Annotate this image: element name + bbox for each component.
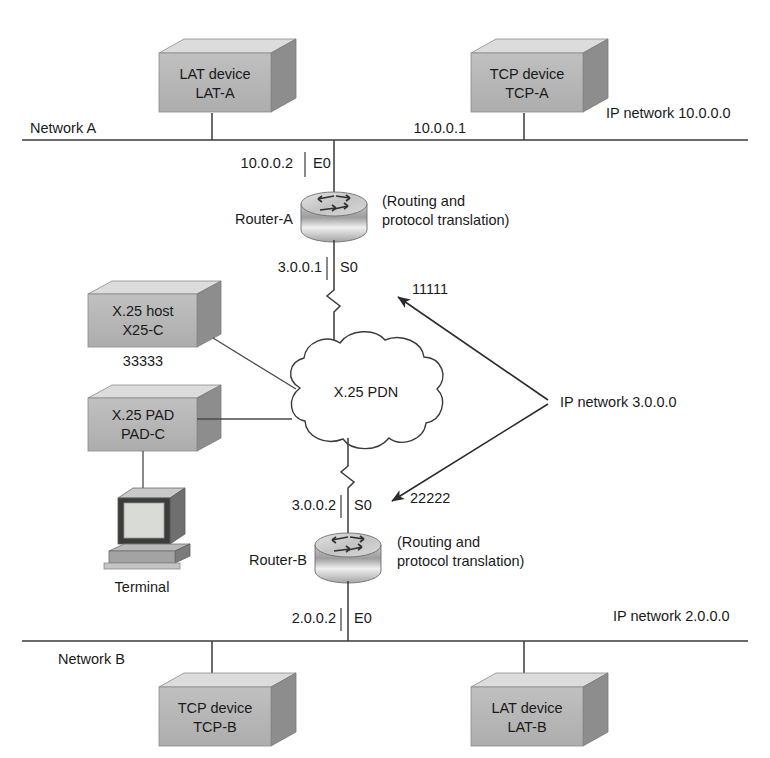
router-a-name: Router-A [235, 211, 293, 227]
router-a-ser-if: S0 [340, 259, 358, 275]
router-b-eth-ip: 2.0.0.2 [292, 610, 336, 626]
node-tcp-a-line2: TCP-A [505, 85, 549, 101]
node-x25-pad-line2: PAD-C [121, 426, 165, 442]
x25-addr-11111: 11111 [412, 281, 448, 297]
x25-pdn-cloud[interactable]: X.25 PDN [291, 332, 443, 449]
x25-addr-22222: 22222 [410, 490, 450, 506]
network-diagram: Network A IP network 10.0.0.0 LAT device… [0, 0, 770, 758]
node-terminal[interactable]: Terminal [104, 488, 190, 595]
router-b-name: Router-B [249, 552, 307, 568]
x25-host-address: 33333 [123, 353, 163, 369]
node-lat-a-line2: LAT-A [195, 85, 235, 101]
tcp-a-ip-label: 10.0.0.1 [414, 120, 466, 136]
network-a-bus: Network A IP network 10.0.0.0 [22, 105, 748, 140]
node-lat-b-line2: LAT-B [507, 719, 546, 735]
router-a-eth-if: E0 [313, 155, 331, 171]
node-terminal-label: Terminal [115, 579, 170, 595]
diagram-canvas: Network A IP network 10.0.0.0 LAT device… [0, 0, 770, 758]
router-a-icon [301, 192, 367, 242]
network-b-bus: Network B IP network 2.0.0.0 [22, 608, 748, 667]
node-x25-pad-line1: X.25 PAD [112, 407, 175, 423]
network-a-label: Network A [30, 120, 96, 136]
node-tcp-b-line2: TCP-B [193, 719, 237, 735]
node-tcp-b-line1: TCP device [178, 700, 253, 716]
node-tcp-a[interactable]: TCP device TCP-A 10.0.0.1 [414, 39, 608, 140]
ip-network-3-label: IP network 3.0.0.0 [560, 394, 677, 410]
node-lat-a-line1: LAT device [179, 66, 250, 82]
router-b-icon [315, 533, 381, 583]
router-a-eth-ip: 10.0.0.2 [241, 155, 293, 171]
node-x25-pad[interactable]: X.25 PAD PAD-C [88, 385, 292, 492]
node-lat-b[interactable]: LAT device LAT-B [471, 641, 608, 746]
router-a-note-line1: (Routing and [382, 193, 465, 209]
router-b-ser-if: S0 [354, 497, 372, 513]
node-x25-host[interactable]: X.25 host X25-C 33333 [88, 281, 296, 389]
node-tcp-b[interactable]: TCP device TCP-B [159, 641, 296, 746]
router-a[interactable]: 10.0.0.2 E0 Router-A (Routing and protoc… [235, 140, 509, 346]
router-b[interactable]: 3.0.0.2 S0 Router-B (Routing and protoco… [249, 438, 524, 641]
router-a-note-line2: protocol translation) [382, 212, 509, 228]
network-b-label: Network B [58, 651, 125, 667]
router-a-ser-ip: 3.0.0.1 [278, 259, 322, 275]
router-b-ser-ip: 3.0.0.2 [292, 497, 336, 513]
ip-network-10-label: IP network 10.0.0.0 [606, 105, 731, 121]
x25-pdn-label: X.25 PDN [334, 384, 398, 400]
node-x25-host-line1: X.25 host [112, 303, 173, 319]
ip-network-2-label: IP network 2.0.0.0 [613, 608, 730, 624]
router-b-eth-if: E0 [354, 610, 372, 626]
router-b-note-line1: (Routing and [397, 534, 480, 550]
router-b-note-line2: protocol translation) [397, 553, 524, 569]
node-x25-host-line2: X25-C [122, 322, 163, 338]
node-lat-a[interactable]: LAT device LAT-A [159, 39, 296, 140]
node-tcp-a-line1: TCP device [490, 66, 565, 82]
node-lat-b-line1: LAT device [491, 700, 562, 716]
